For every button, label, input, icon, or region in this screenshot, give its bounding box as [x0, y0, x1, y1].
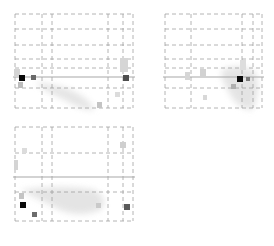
activation-voxel [18, 82, 23, 88]
activation-voxel [115, 92, 120, 97]
activation-voxel [123, 75, 129, 81]
activation-voxel [31, 75, 36, 80]
activation-voxel [231, 84, 236, 89]
activation-cloud [20, 187, 104, 214]
activation-voxel [246, 77, 250, 81]
activation-voxel [32, 212, 37, 217]
activation-voxel [240, 60, 246, 70]
activation-voxel [19, 75, 25, 81]
activation-voxel [203, 95, 207, 100]
activation-voxel [200, 69, 206, 77]
activation-voxel [14, 160, 18, 170]
panel-axial [13, 127, 135, 221]
activation-voxel [120, 142, 126, 148]
activation-voxel [19, 193, 24, 199]
activation-voxel [185, 72, 190, 80]
activation-cloud [35, 82, 95, 110]
panel-sagittal [13, 14, 135, 110]
activation-voxel [20, 202, 26, 208]
glass-brain-figure [0, 0, 274, 246]
activation-voxel [22, 148, 27, 153]
activation-voxel [237, 76, 243, 82]
panel-coronal [163, 14, 264, 110]
activation-voxel [97, 102, 102, 108]
projection-canvas [0, 0, 274, 246]
activation-voxel [120, 58, 128, 72]
activation-voxel [96, 203, 101, 208]
activation-voxel [124, 204, 130, 210]
